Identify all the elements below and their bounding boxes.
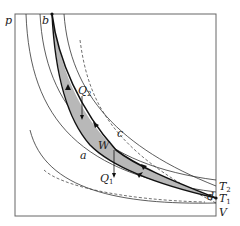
diagram-graphic xyxy=(0,0,240,226)
point-a-label: a xyxy=(80,150,87,161)
work-label: W xyxy=(98,140,109,151)
v-axis-label: V xyxy=(219,207,227,218)
point-b xyxy=(50,12,53,15)
p-axis-label: p xyxy=(5,15,12,26)
point-d-label: d xyxy=(207,191,214,202)
q2-label: Q2 xyxy=(78,85,92,98)
isotherm-t2-curve xyxy=(64,14,216,186)
work-area xyxy=(52,14,216,198)
point-c-label: c xyxy=(117,128,123,139)
t1-label: T1 xyxy=(219,193,231,206)
point-d xyxy=(214,196,217,199)
point-b-label: b xyxy=(42,15,49,26)
q1-label: Q1 xyxy=(100,173,114,186)
pv-diagram: p V b c a d W Q2 Q1 T2 T1 xyxy=(0,0,240,226)
